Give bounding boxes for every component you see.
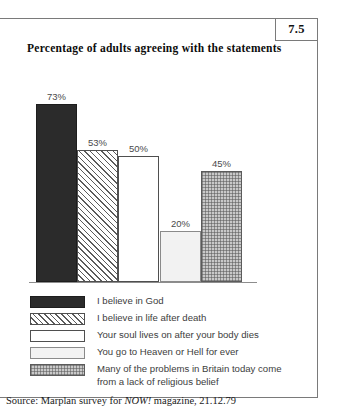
legend-swatch-icon [30, 296, 85, 308]
chart-legend: I believe in God I believe in life after… [30, 295, 300, 392]
legend-swatch-icon [30, 364, 85, 376]
bar-i-believe-in-god: 73% [36, 104, 77, 282]
legend-item-problems-lack-of-religion: Many of the problems in Britain today co… [30, 363, 300, 388]
legend-item-heaven-or-hell: You go to Heaven or Hell for ever [30, 346, 300, 359]
figure-frame: 7.5 Percentage of adults agreeing with t… [0, 18, 318, 398]
legend-item-label-line2: from a lack of religious belief [97, 376, 219, 387]
legend-item-label: You go to Heaven or Hell for ever [97, 346, 239, 359]
source-prefix-text: Source: Marplan survey for [6, 395, 124, 406]
bar-value-label: 50% [119, 143, 158, 154]
plot-area: 73% 53% 50% 20% 45% [36, 79, 243, 284]
bar-problems-lack-of-religion: 45% [201, 171, 242, 282]
figure-number-badge: 7.5 [275, 19, 317, 41]
bar-life-after-death: 53% [77, 150, 118, 282]
legend-item-soul-lives-on: Your soul lives on after your body dies [30, 329, 300, 342]
legend-item-life-after-death: I believe in life after death [30, 312, 300, 325]
chart-title: Percentage of adults agreeing with the s… [27, 42, 282, 54]
source-note: Source: Marplan survey for NOW! magazine… [6, 395, 236, 406]
bar-value-label: 73% [37, 91, 76, 102]
bar-value-label: 53% [78, 137, 117, 148]
legend-swatch-icon [30, 313, 85, 325]
legend-item-label: I believe in God [97, 295, 164, 308]
source-suffix-text: magazine, 21.12.79 [151, 395, 236, 406]
bar-heaven-or-hell: 20% [160, 231, 201, 282]
legend-item-label-multiline: Many of the problems in Britain today co… [97, 363, 282, 388]
source-publication-name: NOW! [124, 395, 151, 406]
legend-swatch-icon [30, 330, 85, 342]
legend-item-label-line1: Many of the problems in Britain today co… [97, 363, 282, 374]
legend-item-label: Your soul lives on after your body dies [97, 329, 259, 342]
legend-swatch-icon [30, 347, 85, 359]
baseline-axis [29, 282, 257, 283]
bar-soul-lives-on: 50% [118, 156, 159, 282]
legend-item-label: I believe in life after death [97, 312, 206, 325]
legend-item-i-believe-in-god: I believe in God [30, 295, 300, 308]
figure-number-text: 7.5 [288, 22, 305, 37]
bar-value-label: 45% [202, 158, 241, 169]
bar-value-label: 20% [161, 218, 200, 229]
